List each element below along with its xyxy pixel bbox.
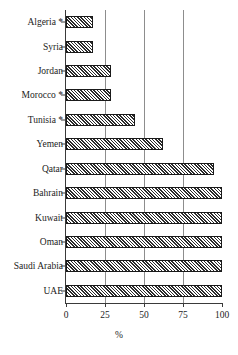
bar-rows: Algeria *SyriaJordanMorocco *Tunisia *Ye… (0, 10, 238, 303)
y-axis-tick (61, 71, 65, 72)
bar (66, 260, 222, 272)
y-axis-tick (61, 119, 65, 120)
category-label: Jordan (0, 66, 63, 77)
bar (66, 114, 135, 126)
bar-row: Jordan (0, 59, 238, 83)
category-label: Oman (0, 236, 63, 247)
category-label: Kuwait (0, 212, 63, 223)
bar-row: Algeria * (0, 10, 238, 34)
bar-chart: Algeria *SyriaJordanMorocco *Tunisia *Ye… (0, 0, 238, 355)
category-label: Yemen (0, 139, 63, 150)
category-label: UAE (0, 285, 63, 296)
category-label: Tunisia * (0, 114, 63, 125)
y-axis-tick (61, 22, 65, 23)
bar-row: Morocco * (0, 83, 238, 107)
category-label: Bahrain (0, 188, 63, 199)
x-axis-tick-label: 50 (139, 310, 149, 321)
bar-row: Syria (0, 34, 238, 58)
bar (66, 89, 111, 101)
bar (66, 16, 93, 28)
y-axis-tick (61, 266, 65, 267)
x-axis-tick (144, 303, 145, 307)
x-axis-tick (105, 303, 106, 307)
x-axis-tick-label: 25 (100, 310, 110, 321)
y-axis-tick (61, 95, 65, 96)
x-axis-tick (66, 303, 67, 307)
y-axis-tick (61, 217, 65, 218)
bar-row: Oman (0, 230, 238, 254)
bar (66, 163, 214, 175)
bar-row: UAE (0, 279, 238, 303)
bar (66, 187, 222, 199)
bar (66, 41, 93, 53)
x-axis-tick-label: 75 (178, 310, 188, 321)
bar-row: Kuwait (0, 205, 238, 229)
category-label: Algeria * (0, 17, 63, 28)
x-axis-title: % (0, 330, 238, 341)
bar (66, 138, 163, 150)
category-label: Saudi Arabia (0, 261, 63, 272)
bar-row: Bahrain (0, 181, 238, 205)
bar (66, 212, 222, 224)
y-axis-tick (61, 144, 65, 145)
x-axis-tick-label: 0 (64, 310, 69, 321)
bar (66, 285, 222, 297)
x-axis-tick-label: 100 (215, 310, 229, 321)
bar-row: Qatar (0, 157, 238, 181)
category-label: Syria (0, 41, 63, 52)
x-axis-tick (183, 303, 184, 307)
y-axis-tick (61, 193, 65, 194)
bar (66, 65, 111, 77)
y-axis-tick (61, 46, 65, 47)
y-axis-tick (61, 290, 65, 291)
bar (66, 236, 222, 248)
category-label: Qatar (0, 163, 63, 174)
y-axis-tick (61, 168, 65, 169)
y-axis-tick (61, 241, 65, 242)
category-label: Morocco * (0, 90, 63, 101)
bar-row: Yemen (0, 132, 238, 156)
x-axis-tick (222, 303, 223, 307)
bar-row: Tunisia * (0, 108, 238, 132)
bar-row: Saudi Arabia (0, 254, 238, 278)
